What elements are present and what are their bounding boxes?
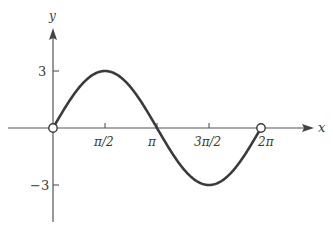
x-tick-label-pi: π: [147, 135, 157, 149]
sine-chart: y x 3 −3 π/2 π 3π/2 2π: [0, 0, 333, 226]
y-tick-label-3: 3: [38, 64, 46, 79]
x-axis-label: x: [318, 120, 326, 135]
x-tick-label-two-pi: 2π: [257, 135, 275, 149]
y-axis-label: y: [48, 9, 56, 23]
open-endpoint-circle-icon: [49, 124, 57, 132]
y-tick-label-neg3: −3: [30, 178, 49, 193]
x-tick-label-pi-half: π/2: [93, 135, 114, 149]
x-tick-label-three-pi-half: 3π/2: [194, 135, 221, 149]
open-endpoint-circle-icon: [257, 124, 265, 132]
